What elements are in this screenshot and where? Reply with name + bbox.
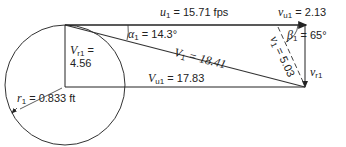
Vr1-label: Vr1 =4.56 [70, 44, 94, 69]
Vu1-label: Vu1 = 17.83 [148, 72, 204, 86]
vr1-label: vr1 [310, 66, 322, 80]
u1-label: u1 = 15.71 fps [160, 6, 228, 20]
alpha1-label: α1 = 14.3° [128, 28, 177, 42]
r1-label: r1 = 0.833 ft [17, 92, 75, 106]
beta1-label: β1 = 65° [287, 29, 327, 43]
vu1-label: vu1 = 2.13 [278, 6, 326, 20]
r1-leader-lower [12, 108, 17, 113]
